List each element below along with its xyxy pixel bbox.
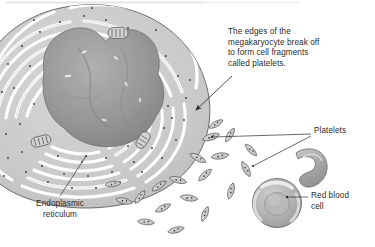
endoplasmic-reticulum-label: Endoplasmic reticulum — [8, 199, 112, 220]
platelet — [154, 202, 172, 215]
caption-text: The edges of the megakaryocyte break off… — [228, 27, 319, 69]
platelet — [180, 194, 199, 202]
red-blood-cell-edge-view — [296, 149, 327, 187]
red-blood-cell-face-view — [253, 179, 302, 228]
platelet — [137, 218, 155, 225]
platelet — [244, 142, 259, 157]
red-blood-cell-label: Red blood cell — [311, 191, 349, 212]
platelet — [197, 167, 214, 183]
platelet — [226, 182, 236, 200]
platelet — [167, 225, 185, 235]
platelet — [223, 127, 236, 143]
platelet — [208, 118, 225, 131]
platelet — [211, 152, 230, 160]
platelet — [239, 160, 252, 178]
diagram-figure: The edges of the megakaryocyte break off… — [0, 0, 375, 247]
platelet — [199, 206, 210, 223]
platelets-label: Platelets — [314, 126, 346, 137]
